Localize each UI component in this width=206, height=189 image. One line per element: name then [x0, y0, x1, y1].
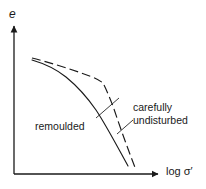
- x-axis-label: log σ′: [166, 165, 193, 178]
- curve-label-carefully-undisturbed: carefully undisturbed: [133, 101, 188, 127]
- curve-label-line2: undisturbed: [133, 114, 188, 127]
- x-axis-label-main: log σ: [166, 165, 191, 177]
- curve-label-remoulded: remoulded: [35, 120, 85, 133]
- leader-line-undisturbed: [117, 120, 133, 134]
- curve-remoulded: [32, 60, 128, 166]
- x-axis-label-prime: ′: [191, 165, 193, 177]
- plot-svg: [0, 0, 206, 189]
- y-axis-label: e: [9, 8, 16, 22]
- figure-container: e log σ′ remoulded carefully undisturbed: [0, 0, 206, 189]
- curve-label-line1: carefully: [133, 101, 188, 114]
